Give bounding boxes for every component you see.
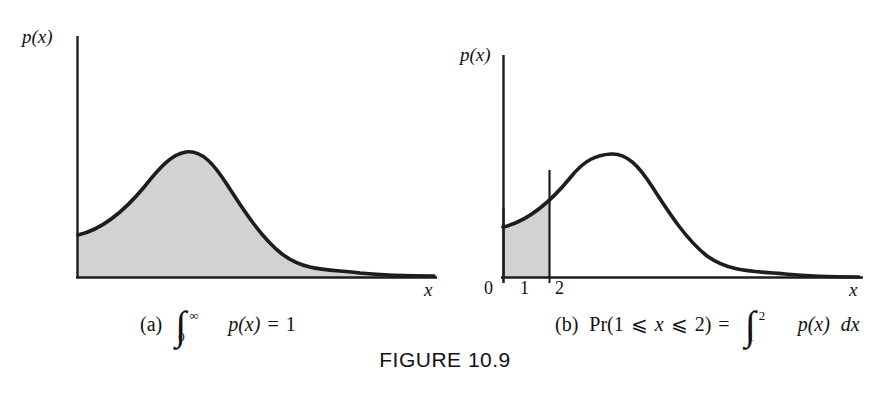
panel-b-tick-label-2: 2 — [555, 278, 564, 299]
panel-b: p(x) x 0 1 2 — [445, 0, 890, 310]
panel-b-shaded-interval — [503, 154, 859, 277]
caption-b-variable: x — [655, 313, 664, 335]
caption-a-equals: = — [265, 313, 280, 335]
panel-b-density-curve — [503, 154, 859, 277]
caption-b-rel2: ⩽ — [669, 313, 690, 335]
caption-b-differential: dx — [841, 313, 860, 335]
panel-b-tick-label-0: 0 — [484, 278, 493, 299]
caption-b-equals: = — [716, 313, 731, 335]
panel-b-y-axis-label: p(x) — [460, 44, 491, 66]
caption-b: (b) Pr(1 ⩽ x ⩽ 2) = ∫ 2 1 p(x) dx — [555, 314, 860, 338]
caption-a-value: 1 — [286, 313, 296, 335]
caption-a-integral: ∫ ∞ 0 — [173, 318, 199, 338]
panel-b-tick-label-1: 1 — [520, 278, 529, 299]
panel-a-plot — [0, 0, 445, 310]
caption-b-integral-lower: 1 — [748, 330, 755, 343]
figure-label: FIGURE 10.9 — [0, 348, 890, 372]
panel-b-x-axis-label: x — [849, 279, 857, 301]
panel-a-shaded-area — [78, 152, 434, 277]
panel-a: p(x) x — [0, 0, 445, 310]
caption-a-integral-upper: ∞ — [189, 309, 198, 322]
caption-b-suffix: 2) — [695, 313, 712, 335]
caption-b-prefix: Pr(1 — [589, 313, 623, 335]
panel-a-x-axis-label: x — [424, 279, 432, 301]
caption-b-integral-upper: 2 — [759, 309, 766, 322]
caption-a-integral-lower: 0 — [178, 330, 185, 343]
panel-a-y-axis-label: p(x) — [22, 26, 53, 48]
caption-b-integrand: p(x) — [798, 313, 830, 335]
figure-10-9: p(x) x p(x) — [0, 0, 890, 398]
caption-a-integrand: p(x) — [228, 313, 260, 335]
panel-b-plot — [445, 0, 890, 310]
caption-b-integral: ∫ 2 1 — [743, 318, 769, 338]
caption-a: (a) ∫ ∞ 0 p(x) = 1 — [140, 314, 296, 338]
caption-b-rel1: ⩽ — [629, 313, 650, 335]
caption-a-tag: (a) — [140, 313, 162, 335]
caption-b-tag: (b) — [555, 313, 578, 335]
